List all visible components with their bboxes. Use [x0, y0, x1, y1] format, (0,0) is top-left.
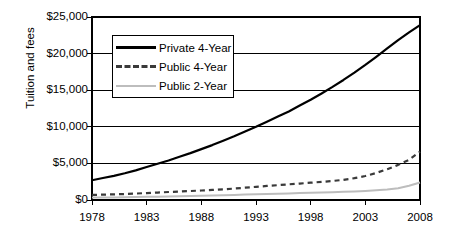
legend-label-public-4-year: Public 4-Year [156, 61, 227, 73]
legend-item-private-4-year: Private 4-Year [113, 38, 233, 57]
chart-legend: Private 4-Year Public 4-Year Public 2-Ye… [112, 35, 234, 98]
legend-item-public-2-year: Public 2-Year [113, 76, 233, 95]
solid-dark-line-icon [116, 42, 156, 54]
legend-label-private-4-year: Private 4-Year [156, 42, 231, 54]
x-tick-label: 1993 [226, 212, 286, 224]
x-tick-label: 1988 [171, 212, 231, 224]
x-tick-label: 1998 [281, 212, 341, 224]
x-tick-label: 2003 [335, 212, 395, 224]
x-tick-label: 1978 [62, 212, 122, 224]
tuition-and-fees-line-chart: Tuition and fees $0$5,000$10,000$15,000$… [0, 0, 451, 249]
x-tick-label: 1983 [117, 212, 177, 224]
x-tick-label: 2008 [390, 212, 450, 224]
dashed-line-icon [116, 61, 156, 73]
legend-item-public-4-year: Public 4-Year [113, 57, 233, 76]
legend-label-public-2-year: Public 2-Year [156, 80, 227, 92]
solid-light-line-icon [116, 80, 156, 92]
